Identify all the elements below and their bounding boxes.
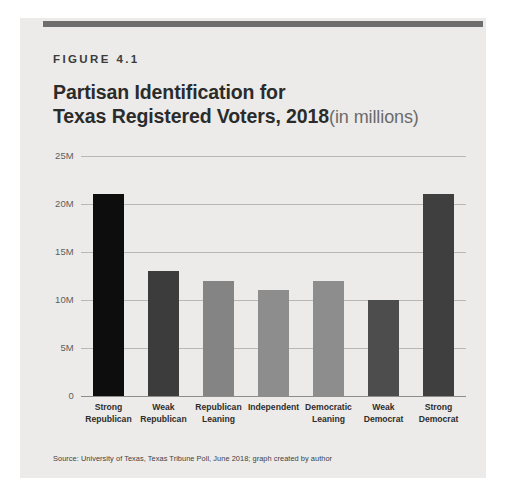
gridline	[81, 252, 466, 253]
y-axis-tick-label: 25M	[30, 150, 74, 161]
bar-chart-plot-area: 05M10M15M20M25MStrongRepublicanWeakRepub…	[20, 18, 486, 478]
x-axis-tick-line: Leaning	[187, 414, 250, 426]
y-axis-tick-label: 10M	[30, 294, 74, 305]
x-axis-tick-line: Republican	[132, 414, 195, 426]
bar[interactable]	[423, 194, 454, 396]
x-axis-tick-label: StrongRepublican	[77, 402, 140, 425]
bar[interactable]	[203, 281, 234, 396]
x-axis-tick-line: Leaning	[297, 414, 360, 426]
y-axis-tick-label: 0	[30, 390, 74, 401]
x-axis-tick-label: RepublicanLeaning	[187, 402, 250, 425]
bar[interactable]	[313, 281, 344, 396]
x-axis-tick-line: Independent	[242, 402, 305, 414]
bar[interactable]	[93, 194, 124, 396]
figure-card: FIGURE 4.1 Partisan Identification for T…	[20, 18, 486, 478]
x-axis-tick-line: Strong	[407, 402, 470, 414]
y-axis-tick-label: 5M	[30, 342, 74, 353]
x-axis-tick-line: Republican	[77, 414, 140, 426]
bar[interactable]	[368, 300, 399, 396]
y-axis-tick-label: 20M	[30, 198, 74, 209]
y-axis-tick-label: 15M	[30, 246, 74, 257]
gridline	[81, 156, 466, 157]
gridline	[81, 204, 466, 205]
figure-source-note: Source: University of Texas, Texas Tribu…	[53, 454, 332, 463]
x-axis-tick-line: Strong	[77, 402, 140, 414]
x-axis-tick-label: WeakDemocrat	[352, 402, 415, 425]
x-axis-tick-label: StrongDemocrat	[407, 402, 470, 425]
x-axis-tick-label: DemocraticLeaning	[297, 402, 360, 425]
x-axis-tick-label: Independent	[242, 402, 305, 414]
x-axis-tick-label: WeakRepublican	[132, 402, 195, 425]
x-axis-tick-line: Democratic	[297, 402, 360, 414]
bar[interactable]	[258, 290, 289, 396]
x-axis-tick-line: Weak	[352, 402, 415, 414]
x-axis-tick-line: Republican	[187, 402, 250, 414]
x-axis-baseline	[81, 396, 466, 397]
x-axis-tick-line: Weak	[132, 402, 195, 414]
x-axis-tick-line: Democrat	[407, 414, 470, 426]
bar[interactable]	[148, 271, 179, 396]
x-axis-tick-line: Democrat	[352, 414, 415, 426]
